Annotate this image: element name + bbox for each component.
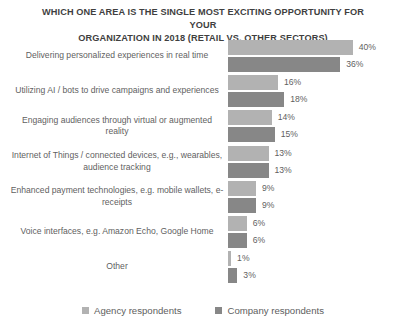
bar-value-label: 9% [262, 182, 274, 195]
chart-legend: Agency respondents Company respondents [0, 305, 406, 316]
legend-label-agency: Agency respondents [94, 305, 181, 316]
bar-value-label: 3% [243, 269, 255, 282]
category-label: Utilizing AI / bots to drive campaigns a… [10, 75, 224, 107]
bar-company [228, 127, 275, 142]
legend-item-company: Company respondents [215, 305, 324, 316]
bar-value-label: 36% [346, 58, 363, 71]
bar-agency [228, 75, 278, 90]
bar-value-label: 18% [290, 93, 307, 106]
bar-company [228, 268, 237, 283]
category-label: Delivering personalized experiences in r… [10, 40, 224, 72]
bar-value-label: 14% [278, 111, 295, 124]
bar-agency [228, 40, 353, 55]
bar-value-label: 40% [359, 41, 376, 54]
bar-company [228, 57, 340, 72]
bar-company [228, 163, 269, 178]
bar-value-label: 13% [275, 147, 292, 160]
bar-value-label: 1% [237, 252, 249, 265]
legend-item-agency: Agency respondents [82, 305, 181, 316]
category-label: Enhanced payment technologies, e.g. mobi… [10, 181, 224, 213]
bar-company [228, 233, 247, 248]
plot-area: Delivering personalized experiences in r… [0, 40, 406, 292]
bar-company [228, 198, 256, 213]
bar-agency [228, 216, 247, 231]
bar-value-label: 15% [281, 128, 298, 141]
bar-chart: WHICH ONE AREA IS THE SINGLE MOST EXCITI… [0, 0, 406, 335]
bar-value-label: 9% [262, 199, 274, 212]
bar-company [228, 92, 284, 107]
category-label: Internet of Things / connected devices, … [10, 146, 224, 178]
legend-swatch-company-icon [215, 307, 222, 314]
bar-agency [228, 251, 231, 266]
bar-agency [228, 146, 269, 161]
category-label: Voice interfaces, e.g. Amazon Echo, Goog… [10, 216, 224, 248]
legend-swatch-agency-icon [82, 307, 89, 314]
chart-title-line-1: WHICH ONE AREA IS THE SINGLE MOST EXCITI… [28, 6, 378, 32]
legend-label-company: Company respondents [227, 305, 324, 316]
bar-value-label: 6% [253, 217, 265, 230]
bar-agency [228, 110, 272, 125]
category-label: Engaging audiences through virtual or au… [10, 110, 224, 142]
bar-value-label: 16% [284, 76, 301, 89]
bar-value-label: 6% [253, 234, 265, 247]
bar-value-label: 13% [275, 164, 292, 177]
category-label: Other [10, 251, 224, 283]
bar-agency [228, 181, 256, 196]
